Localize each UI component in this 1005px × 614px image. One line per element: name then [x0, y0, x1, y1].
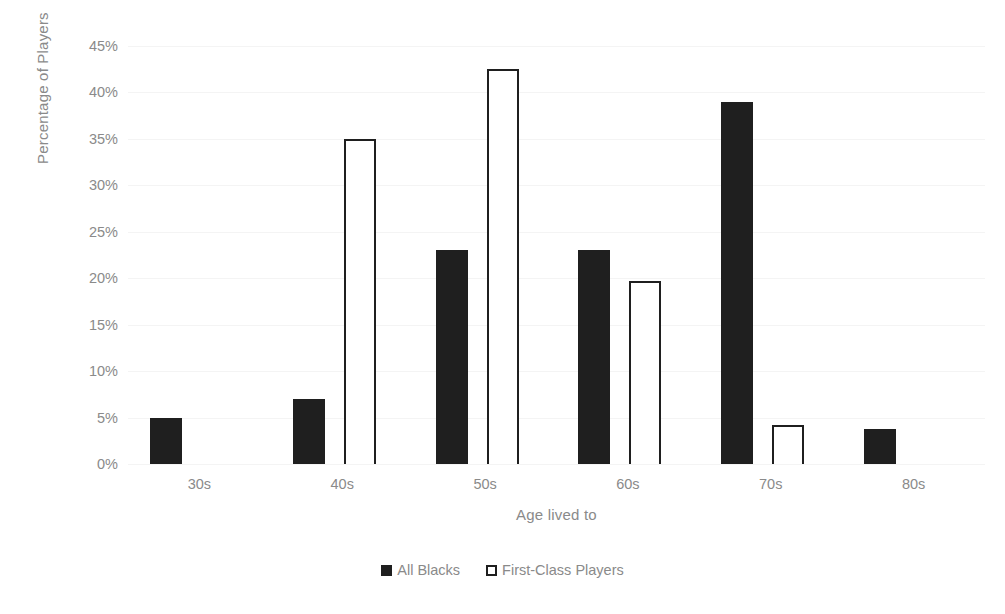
- y-axis-tick-label: 20%: [70, 271, 118, 286]
- x-axis-tick-label: 80s: [842, 476, 985, 492]
- hollow-square-icon: [486, 565, 497, 576]
- legend-item-label: All Blacks: [397, 562, 460, 578]
- y-axis-tick-label: 0%: [70, 457, 118, 472]
- y-axis-tick-labels: 0%5%10%15%20%25%30%35%40%45%: [70, 36, 122, 474]
- y-axis-tick-label: 15%: [70, 318, 118, 333]
- filled-square-icon: [381, 565, 392, 576]
- y-axis-title: Percentage of Players: [34, 0, 58, 164]
- legend-item-all-blacks[interactable]: All Blacks: [381, 562, 460, 578]
- bar-group: [842, 46, 985, 464]
- y-axis-tick-label: 5%: [70, 411, 118, 426]
- y-axis-tick-label: 30%: [70, 178, 118, 193]
- y-axis-tick-label: 10%: [70, 364, 118, 379]
- y-axis-tick-label: 40%: [70, 85, 118, 100]
- bar-chart: Percentage of Players 0%5%10%15%20%25%30…: [0, 0, 1005, 614]
- bar-40s-all-blacks: [293, 399, 325, 464]
- x-axis-title: Age lived to: [128, 506, 985, 523]
- legend-item-label: First-Class Players: [502, 562, 624, 578]
- y-axis-tick-label: 25%: [70, 225, 118, 240]
- bar-50s-all-blacks: [436, 250, 468, 464]
- y-axis-tick-label: 35%: [70, 132, 118, 147]
- x-axis-tick-label: 50s: [414, 476, 557, 492]
- x-axis-tick-label: 70s: [699, 476, 842, 492]
- bar-70s-all-blacks: [721, 102, 753, 464]
- gridline: [128, 464, 985, 465]
- bar-group: [414, 46, 557, 464]
- chart-legend: All BlacksFirst-Class Players: [0, 562, 1005, 578]
- bar-60s-all-blacks: [578, 250, 610, 464]
- legend-item-first-class[interactable]: First-Class Players: [486, 562, 624, 578]
- bar-60s-first-class: [629, 281, 661, 464]
- bar-group: [128, 46, 271, 464]
- bar-50s-first-class: [487, 69, 519, 464]
- bar-40s-first-class: [344, 139, 376, 464]
- x-axis-tick-labels: 30s40s50s60s70s80s: [128, 476, 985, 502]
- bar-group: [557, 46, 700, 464]
- bar-group: [699, 46, 842, 464]
- y-axis-tick-label: 45%: [70, 39, 118, 54]
- x-axis-tick-label: 60s: [557, 476, 700, 492]
- x-axis-tick-label: 30s: [128, 476, 271, 492]
- plot-area: [128, 46, 985, 464]
- bar-80s-all-blacks: [864, 429, 896, 464]
- bar-70s-first-class: [772, 425, 804, 464]
- x-axis-tick-label: 40s: [271, 476, 414, 492]
- bar-30s-all-blacks: [150, 418, 182, 464]
- bar-group: [271, 46, 414, 464]
